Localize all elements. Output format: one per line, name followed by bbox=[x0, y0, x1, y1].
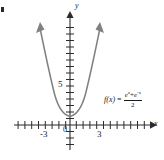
equation-denominator: 2 bbox=[131, 101, 135, 109]
x-tick-label-neg3: -3 bbox=[40, 130, 48, 139]
y-axis-label: y bbox=[75, 2, 79, 10]
equation-fraction: ex+e-x 2 bbox=[124, 90, 142, 109]
y-axis-arrowhead bbox=[66, 11, 73, 18]
equation-function-name: f(x) bbox=[104, 96, 115, 104]
x-axis-label: x bbox=[154, 120, 158, 128]
graph-figure: x y -3 3 0 5 f(x) = ex+e-x 2 bbox=[0, 0, 164, 160]
x-tick-label-pos3: 3 bbox=[97, 130, 102, 139]
equation-equals-sign: = bbox=[117, 96, 122, 104]
numerator-second-exponent: -x bbox=[137, 90, 141, 95]
equation-numerator: ex+e-x bbox=[124, 90, 142, 100]
y-tick-label-five: 5 bbox=[58, 80, 63, 89]
function-equation: f(x) = ex+e-x 2 bbox=[104, 90, 142, 109]
origin-label: 0 bbox=[63, 126, 67, 134]
plot-canvas bbox=[0, 0, 164, 160]
